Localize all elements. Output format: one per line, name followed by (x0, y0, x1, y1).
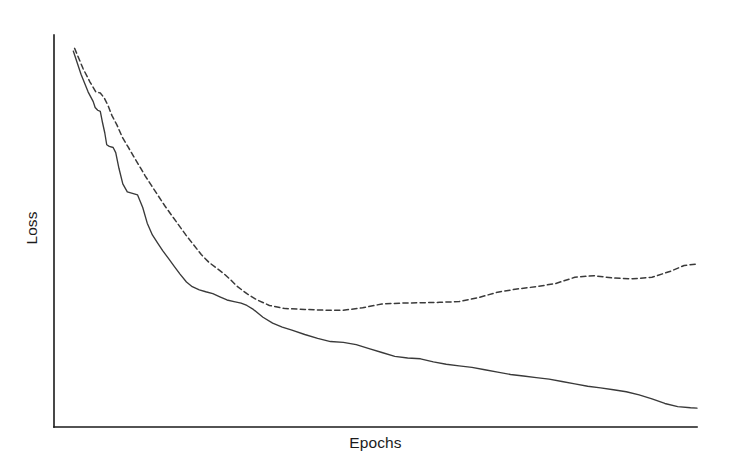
x-axis-label: Epochs (54, 434, 697, 452)
y-axis-label: Loss (0, 198, 78, 258)
plot-background (0, 0, 729, 472)
chart-canvas (0, 0, 729, 472)
loss-curve-figure: Loss Epochs (0, 0, 729, 472)
